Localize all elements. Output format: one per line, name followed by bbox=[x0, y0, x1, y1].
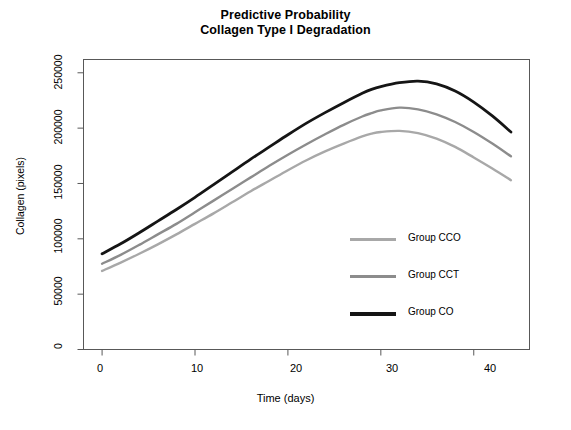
legend-swatch-group-co bbox=[350, 312, 396, 316]
legend-label-group-cct: Group CCT bbox=[408, 269, 459, 280]
legend-label-group-co: Group CO bbox=[408, 306, 454, 317]
chart-figure: Predictive Probability Collagen Type I D… bbox=[0, 0, 571, 430]
legend-label-group-cco: Group CCO bbox=[408, 232, 461, 243]
curve-group-cco bbox=[102, 131, 511, 271]
legend-swatch-group-cco bbox=[350, 238, 396, 241]
plot-frame bbox=[84, 60, 530, 350]
legend-swatch-group-cct bbox=[350, 275, 396, 278]
plot-area bbox=[0, 0, 571, 430]
curve-group-co bbox=[102, 81, 511, 254]
